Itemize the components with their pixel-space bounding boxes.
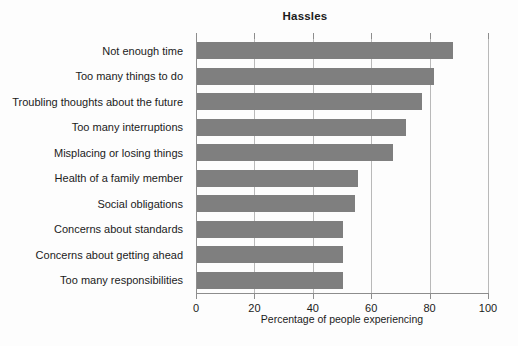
- bar-row: [197, 217, 489, 243]
- bar: [197, 93, 422, 110]
- chart-title: Hassles: [0, 10, 518, 22]
- tick-mark-bottom: [254, 293, 255, 299]
- x-axis-line: [196, 293, 488, 294]
- bar: [197, 119, 406, 136]
- tick-mark-bottom: [313, 293, 314, 299]
- plot-area: 020406080100: [196, 38, 488, 293]
- y-axis-label: Too many responsibilities: [0, 268, 190, 294]
- bar: [197, 246, 343, 263]
- bar: [197, 42, 453, 59]
- bar-row: [197, 140, 489, 166]
- tick-mark-bottom: [196, 293, 197, 299]
- bar: [197, 195, 355, 212]
- y-axis-label: Health of a family member: [0, 166, 190, 192]
- bar-row: [197, 242, 489, 268]
- y-axis-label: Concerns about standards: [0, 217, 190, 243]
- bar-row: [197, 64, 489, 90]
- y-axis-label: Too many things to do: [0, 64, 190, 90]
- bar-row: [197, 191, 489, 217]
- bar-chart: Hassles Not enough time Too many things …: [0, 0, 518, 346]
- bar-row: [197, 38, 489, 64]
- bar: [197, 272, 343, 289]
- bar-row: [197, 115, 489, 141]
- bar: [197, 144, 393, 161]
- bar-row: [197, 89, 489, 115]
- x-axis-title: Percentage of people experiencing: [196, 313, 488, 325]
- bar: [197, 170, 358, 187]
- y-axis-label: Not enough time: [0, 38, 190, 64]
- bar-row: [197, 268, 489, 294]
- y-axis-label: Troubling thoughts about the future: [0, 89, 190, 115]
- y-axis-label: Misplacing or losing things: [0, 140, 190, 166]
- y-axis-category-labels: Not enough time Too many things to do Tr…: [0, 38, 190, 293]
- y-axis-label: Social obligations: [0, 191, 190, 217]
- tick-mark-bottom: [371, 293, 372, 299]
- tick-mark-bottom: [430, 293, 431, 299]
- bar: [197, 68, 434, 85]
- bar-row: [197, 166, 489, 192]
- y-axis-label: Too many interruptions: [0, 115, 190, 141]
- tick-mark-bottom: [488, 293, 489, 299]
- bar: [197, 221, 343, 238]
- y-axis-label: Concerns about getting ahead: [0, 242, 190, 268]
